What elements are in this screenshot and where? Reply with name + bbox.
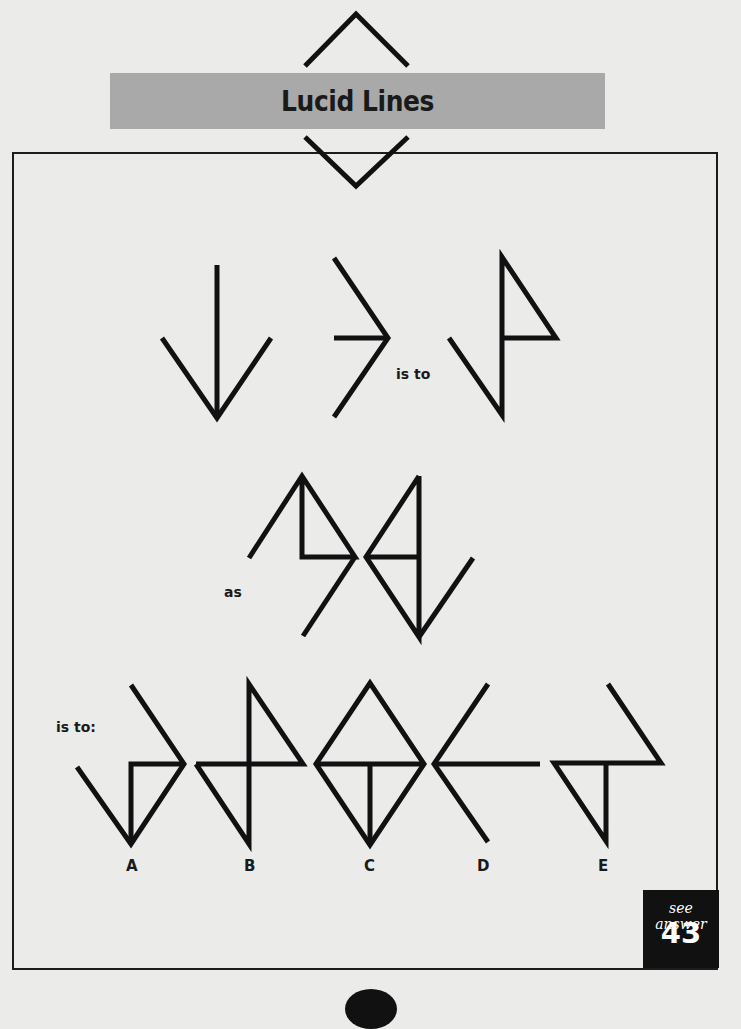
option-a-label[interactable]: A xyxy=(126,857,138,875)
connector-as: as xyxy=(224,584,242,600)
title-down-chevron-icon xyxy=(305,137,408,186)
title-bar: Lucid Lines xyxy=(110,73,605,129)
answer-number: 43 xyxy=(643,916,719,950)
figure-3-flag xyxy=(449,257,556,415)
option-a-figure[interactable] xyxy=(77,685,184,844)
figure-1-down-arrow xyxy=(162,265,271,418)
option-c-figure[interactable] xyxy=(316,683,424,845)
connector-is-to: is to xyxy=(396,366,430,382)
option-d-figure[interactable] xyxy=(434,684,540,842)
title-up-chevron-icon xyxy=(305,14,408,66)
answer-reference-badge: see answer 43 xyxy=(643,890,719,968)
option-d-label[interactable]: D xyxy=(477,857,489,875)
figure-5 xyxy=(366,476,473,637)
connector-is-to-options: is to: xyxy=(56,719,96,735)
figure-4 xyxy=(249,476,355,636)
option-e-label[interactable]: E xyxy=(598,857,608,875)
page-tab-decoration xyxy=(345,989,397,1029)
page-title: Lucid Lines xyxy=(145,73,571,129)
option-e-figure[interactable] xyxy=(554,684,661,841)
option-c-label[interactable]: C xyxy=(364,857,375,875)
option-b-figure[interactable] xyxy=(196,684,303,844)
figure-2-chevron-bar xyxy=(334,258,388,417)
option-b-label[interactable]: B xyxy=(244,857,255,875)
